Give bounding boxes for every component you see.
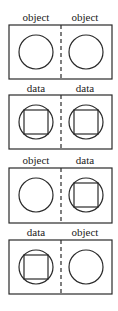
data-square-icon [24,255,48,279]
panel-3 [9,168,112,223]
panel-1 [9,25,112,79]
object-circle-icon [69,35,103,69]
data-square-icon [74,110,98,134]
panel-2 [9,95,112,149]
object-circle-icon [19,178,53,212]
object-circle-icon [69,250,103,284]
diagram-canvas [0,0,118,311]
panel-4 [9,240,112,294]
data-square-icon [74,183,98,207]
data-square-icon [24,110,48,134]
object-circle-icon [19,35,53,69]
